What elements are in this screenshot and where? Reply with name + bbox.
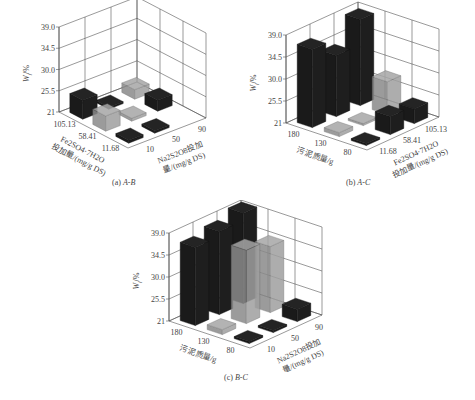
- left-axis-tick: 80: [227, 346, 235, 355]
- z-tick-label: 34.5: [41, 44, 55, 53]
- bar: [180, 236, 209, 325]
- right-axis-tick: 105.13: [425, 125, 447, 134]
- z-tick-label: 39.0: [41, 23, 55, 32]
- right-axis-tick: 50: [291, 334, 299, 343]
- bar: [351, 132, 380, 145]
- caption-b-prefix: (b): [346, 178, 355, 187]
- caption-b: (b) A-C: [346, 178, 370, 187]
- caption-c-prefix: (c): [224, 373, 233, 382]
- z-tick-label: 25.5: [41, 87, 55, 96]
- caption-c-label: B-C: [235, 373, 248, 382]
- z-tick-label: 39.0: [268, 31, 282, 40]
- left-axis-tick: 80: [344, 148, 352, 157]
- bar: [348, 112, 377, 125]
- right-axis-tick: 90: [315, 323, 323, 332]
- chart-a-b-plot: 2125.530.034.539.0Wf/%105.1358.4111.6810…: [22, 0, 207, 178]
- caption-c: (c) B-C: [224, 373, 248, 382]
- chart-panel-a-b: 2125.530.034.539.0Wf/%105.1358.4111.6810…: [0, 0, 240, 178]
- bar3d-chart-a-b: 2125.530.034.539.0Wf/%105.1358.4111.6810…: [0, 0, 240, 178]
- bar: [282, 298, 311, 321]
- caption-a-prefix: (a): [112, 178, 121, 187]
- z-tick-label: 30.0: [268, 75, 282, 84]
- bar: [116, 128, 143, 143]
- chart-b-c-plot: 2125.530.034.539.0Wf/%18013080105090污泥质量…: [132, 200, 325, 372]
- bar: [324, 122, 353, 137]
- z-tick-label: 21: [47, 108, 55, 117]
- grid-walls: [59, 0, 206, 148]
- z-tick-label: 21: [274, 119, 282, 128]
- z-axis-label: Wf/%: [22, 65, 32, 82]
- right-axis-tick: 90: [198, 125, 206, 134]
- z-axis-label: Wf/%: [249, 74, 259, 91]
- z-tick-label: 34.5: [268, 53, 282, 62]
- right-axis-tick: 10: [146, 145, 154, 154]
- z-axis-label: Wf/%: [132, 272, 142, 289]
- bar: [258, 319, 287, 332]
- bar: [207, 319, 236, 335]
- left-axis-title: 污泥质量/g: [179, 343, 218, 365]
- right-axis-tick: 58.41: [403, 136, 421, 145]
- left-axis-tick: 105.13: [54, 120, 76, 129]
- bar3d-chart-a-c: 2125.530.034.539.0Wf/%1801308011.6858.41…: [235, 0, 475, 178]
- chart-a-c-plot: 2125.530.034.539.0Wf/%1801308011.6858.41…: [249, 2, 450, 178]
- bar: [142, 119, 169, 134]
- z-tick-label: 25.5: [268, 97, 282, 106]
- z-tick-label: 39.0: [151, 229, 165, 238]
- left-axis-tick: 180: [288, 130, 300, 139]
- bars: [180, 202, 311, 344]
- right-axis-tick: 50: [172, 135, 180, 144]
- bars: [297, 8, 428, 145]
- z-tick-label: 25.5: [151, 295, 165, 304]
- bar: [375, 105, 404, 134]
- z-tick-label: 21: [157, 317, 165, 326]
- left-axis-tick: 130: [198, 337, 210, 346]
- left-axis-title: 污泥质量/g: [296, 145, 335, 167]
- chart-panel-b-c: 2125.530.034.539.0Wf/%18013080105090污泥质量…: [120, 200, 360, 372]
- z-tick-label: 34.5: [151, 251, 165, 260]
- left-axis-tick: 130: [315, 139, 327, 148]
- bar3d-chart-b-c: 2125.530.034.539.0Wf/%18013080105090污泥质量…: [120, 200, 360, 372]
- bar: [234, 330, 263, 343]
- bar: [93, 104, 120, 132]
- z-tick-label: 30.0: [41, 66, 55, 75]
- bar: [119, 106, 146, 121]
- left-axis-tick: 180: [171, 328, 183, 337]
- chart-panel-a-c: 2125.530.034.539.0Wf/%1801308011.6858.41…: [235, 0, 475, 178]
- left-axis-tick: 11.68: [102, 144, 120, 153]
- z-tick-label: 30.0: [151, 273, 165, 282]
- caption-a-label: A-B: [123, 178, 135, 187]
- caption-b-label: A-C: [357, 178, 370, 187]
- right-axis-tick: 11.68: [379, 147, 397, 156]
- right-axis-tick: 10: [267, 345, 275, 354]
- bar: [231, 239, 260, 324]
- caption-a: (a) A-B: [112, 178, 135, 187]
- bar: [297, 38, 326, 127]
- left-axis-tick: 58.41: [79, 132, 97, 141]
